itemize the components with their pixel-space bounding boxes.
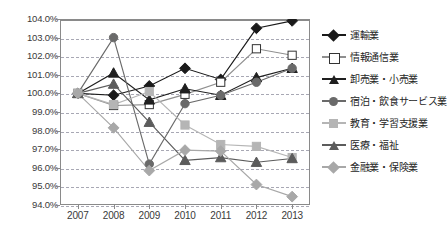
y-axis-tick-label: 103.0% [2,33,58,43]
legend-marker-swatch [329,75,339,84]
legend-item-5[interactable]: 医療・福祉 [322,134,446,156]
y-axis-tick-label: 96.0% [2,163,58,173]
legend-marker-square-icon [322,50,346,64]
legend-marker-swatch [329,141,339,150]
data-point-circle [181,99,189,107]
data-point-square [252,45,260,53]
y-axis-tick-label: 100.0% [2,88,58,98]
legend-marker-circle-icon [322,94,346,108]
data-point-circle [288,64,296,72]
y-axis-tick-label: 98.0% [2,126,58,136]
legend-marker-swatch [329,53,340,64]
x-axis-tick-mark [78,205,79,209]
y-axis-tick-mark [56,205,60,206]
y-axis-tick-label: 104.0% [2,14,58,24]
data-point-triangle [108,79,118,88]
legend: 運輸業情報通信業卸売業・小売業宿泊・飲食サービス業教育・学習支援業医療・福祉金融… [322,24,446,178]
data-point-diamond [180,63,191,74]
legend-item-2[interactable]: 卸売業・小売業 [322,68,446,90]
legend-item-label: 情報通信業 [350,52,399,63]
series-layer [60,19,310,205]
y-axis-tick-label: 102.0% [2,51,58,61]
legend-item-3[interactable]: 宿泊・飲食サービス業 [322,90,446,112]
data-point-diamond [287,19,298,26]
x-axis-tick-label: 2013 [269,211,315,221]
legend-item-label: 卸売業・小売業 [350,74,418,85]
x-axis-tick-mark [221,205,222,209]
data-point-triangle [108,68,118,77]
legend-item-4[interactable]: 教育・学習支援業 [322,112,446,134]
data-point-circle [109,33,117,41]
data-point-square [252,142,260,150]
data-point-square [288,51,296,59]
legend-marker-swatch [327,29,340,42]
x-axis-tick-mark [292,205,293,209]
legend-item-6[interactable]: 金融業・保険業 [322,156,446,178]
legend-marker-square-icon [322,116,346,130]
legend-marker-swatch [329,97,338,106]
legend-item-label: 宿泊・飲食サービス業 [350,96,447,107]
legend-item-label: 医療・福祉 [350,140,399,151]
data-point-diamond [108,90,119,101]
data-point-diamond [251,23,262,34]
legend-item-label: 運輸業 [350,30,379,41]
legend-item-0[interactable]: 運輸業 [322,24,446,46]
data-point-square [145,87,153,95]
y-axis-tick-label: 94.0% [2,200,58,210]
y-axis-tick-label: 97.0% [2,144,58,154]
legend-item-label: 教育・学習支援業 [350,118,428,129]
y-axis-tick-label: 95.0% [2,181,58,191]
data-point-circle [252,78,260,86]
data-point-diamond [180,145,191,156]
legend-marker-triangle-icon [322,72,346,86]
x-axis-tick-mark [256,205,257,209]
x-axis-tick-mark [149,205,150,209]
data-point-square [181,121,189,129]
data-point-square [109,100,117,108]
legend-marker-swatch [327,161,340,174]
data-point-triangle [180,84,190,93]
legend-marker-triangle-icon [322,138,346,152]
data-point-square [217,78,225,86]
y-axis-tick-label: 99.0% [2,107,58,117]
x-axis-tick-mark [114,205,115,209]
legend-item-label: 金融業・保険業 [350,162,418,173]
data-point-diamond [287,191,298,202]
legend-item-1[interactable]: 情報通信業 [322,46,446,68]
legend-marker-diamond-icon [322,28,346,42]
legend-marker-swatch [329,119,338,128]
data-point-circle [217,91,225,99]
x-axis-tick-mark [185,205,186,209]
y-axis-tick-label: 101.0% [2,70,58,80]
legend-marker-diamond-icon [322,160,346,174]
